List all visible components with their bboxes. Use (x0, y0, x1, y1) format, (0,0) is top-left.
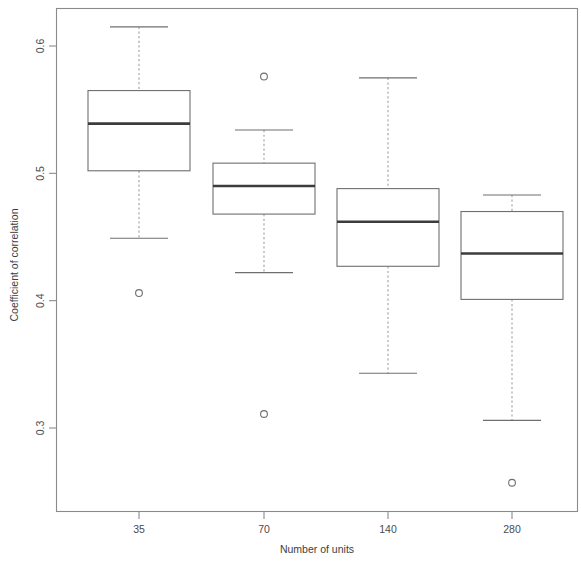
x-tick-label: 70 (258, 523, 270, 535)
x-tick-label: 35 (133, 523, 145, 535)
figure-background (0, 0, 581, 561)
y-tick-label: 0.3 (34, 421, 46, 436)
boxplot-canvas: 0.30.40.50.6 3570140280 Coefficient of c… (0, 0, 581, 561)
x-tick-label: 140 (379, 523, 397, 535)
y-tick-label: 0.6 (34, 39, 46, 54)
y-tick-label: 0.5 (34, 166, 46, 181)
y-axis-title: Coefficient of correlation (8, 208, 20, 321)
x-axis-title: Number of units (280, 543, 354, 555)
boxplot-figure: 0.30.40.50.6 3570140280 Coefficient of c… (0, 0, 581, 561)
y-tick-label: 0.4 (34, 293, 46, 308)
x-tick-label: 280 (503, 523, 521, 535)
